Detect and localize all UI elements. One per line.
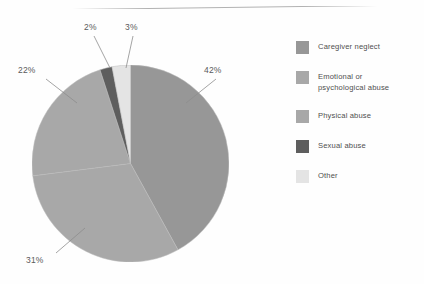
legend-item-sexual-abuse[interactable]: Sexual abuse: [296, 140, 420, 153]
pie-label-caregiver-neglect: 42%: [204, 66, 222, 75]
legend-swatch-physical-abuse: [296, 110, 309, 123]
leader-line-2: [94, 36, 110, 68]
legend-label-other: Other: [318, 170, 338, 182]
legend-label-physical-abuse: Physical abuse: [318, 110, 371, 122]
legend-item-other[interactable]: Other: [296, 170, 420, 183]
legend-label-line1: Caregiver neglect: [318, 42, 380, 53]
chart-canvas: 42% 22% 31% 2% 3% Caregiver neglect Emot…: [0, 0, 424, 284]
legend-swatch-sexual-abuse: [296, 140, 309, 153]
pie-label-physical-abuse: 31%: [26, 256, 44, 265]
chart-legend: Caregiver neglect Emotional or psycholog…: [296, 41, 420, 183]
legend-label-emotional-abuse: Emotional or psychological abuse: [318, 71, 389, 93]
pie-chart: [32, 65, 229, 262]
legend-item-caregiver-neglect[interactable]: Caregiver neglect: [296, 41, 420, 54]
legend-item-physical-abuse[interactable]: Physical abuse: [296, 110, 420, 123]
legend-label-line2: psychological abuse: [318, 83, 389, 94]
legend-swatch-other: [296, 170, 309, 183]
legend-label-sexual-abuse: Sexual abuse: [318, 140, 366, 152]
legend-item-emotional-abuse[interactable]: Emotional or psychological abuse: [296, 71, 420, 93]
legend-swatch-emotional-abuse: [296, 71, 309, 84]
pie-svg: [32, 65, 229, 262]
legend-label-line1: Other: [318, 171, 338, 182]
pie-label-emotional-abuse: 22%: [18, 66, 36, 75]
top-divider-rule: [0, 6, 424, 9]
pie-label-sexual-abuse: 2%: [84, 23, 97, 32]
legend-label-caregiver-neglect: Caregiver neglect: [318, 41, 380, 53]
legend-label-line1: Sexual abuse: [318, 141, 366, 152]
legend-label-line1: Physical abuse: [318, 111, 371, 122]
pie-label-other: 3%: [125, 23, 138, 32]
legend-swatch-caregiver-neglect: [296, 41, 309, 54]
legend-label-line1: Emotional or: [318, 72, 389, 83]
leader-line-3: [126, 36, 133, 68]
